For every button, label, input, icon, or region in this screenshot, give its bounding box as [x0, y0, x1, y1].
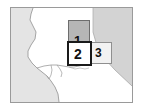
map-thumbnail: 1 3 2: [0, 0, 143, 110]
region-box-2-selected[interactable]: 2: [67, 41, 92, 66]
region-box-2-label: 2: [74, 47, 82, 61]
region-box-3-label: 3: [95, 47, 102, 59]
region-box-3[interactable]: 3: [89, 42, 112, 64]
map-frame: 1 3 2: [10, 7, 133, 103]
